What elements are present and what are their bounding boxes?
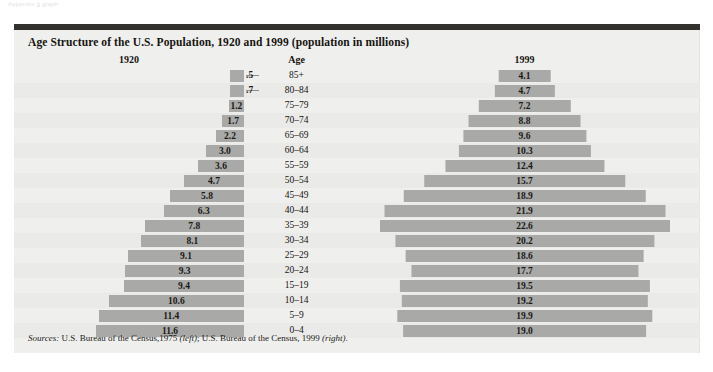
bar-1920: 8.1: [141, 235, 244, 247]
bar-cell-1999: 4.7: [349, 83, 700, 98]
bar-value-1999: 18.6: [405, 250, 644, 262]
bar-value-1999: 17.7: [411, 265, 638, 277]
table-row: 3.060–6410.3: [14, 143, 700, 158]
bar-cell-1920: .5: [14, 68, 244, 83]
bar-value-1999: 4.1: [498, 70, 551, 82]
bar-cell-1920: 11.4: [14, 308, 244, 323]
table-row: 9.320–2417.7: [14, 263, 700, 278]
bar-cell-1999: 9.6: [349, 128, 700, 143]
bar-1999: 4.7: [494, 85, 554, 97]
bar-1920: 1.2: [229, 100, 244, 112]
bar-value-1999: 22.6: [380, 220, 670, 232]
bar-1999: 15.7: [424, 175, 626, 187]
age-group-label: 75–79: [244, 98, 349, 113]
source-text-b: ; U.S. Bureau of the Census, 1999: [197, 333, 322, 343]
bar-value-1920: 10.6: [109, 295, 244, 307]
bar-cell-1999: 20.2: [349, 233, 700, 248]
bar-value-1999: 19.0: [403, 325, 647, 337]
bar-cell-1920: 4.7: [14, 173, 244, 188]
bar-1920: 4.7: [184, 175, 244, 187]
bar-1920: 1.7: [222, 115, 244, 127]
bar-value-1999: 15.7: [424, 175, 626, 187]
bar-1920: 9.1: [128, 250, 244, 262]
bar-1999: 20.2: [395, 235, 654, 247]
age-group-label: 25–29: [244, 248, 349, 263]
bar-cell-1999: 21.9: [349, 203, 700, 218]
bar-1920: [230, 85, 244, 97]
bar-value-1920: 9.1: [128, 250, 244, 262]
bar-1999: 21.9: [384, 205, 665, 217]
source-em-left: (left): [179, 333, 197, 343]
table-row: 8.130–3420.2: [14, 233, 700, 248]
bar-1920: 2.2: [216, 130, 244, 142]
source-text-a: U.S. Bureau of the Census,1975: [59, 333, 179, 343]
source-em-right: (right): [322, 333, 346, 343]
bar-value-1920: 6.3: [164, 205, 244, 217]
table-row: 9.125–2918.6: [14, 248, 700, 263]
table-row: 2.265–699.6: [14, 128, 700, 143]
bar-value-1920: 1.2: [229, 100, 244, 112]
age-group-label: 35–39: [244, 218, 349, 233]
age-group-label: 30–34: [244, 233, 349, 248]
bar-1999: 18.9: [403, 190, 646, 202]
bar-cell-1999: 18.9: [349, 188, 700, 203]
age-group-label: 60–64: [244, 143, 349, 158]
bar-value-1999: 10.3: [458, 145, 590, 157]
bar-value-1920: 5.8: [170, 190, 244, 202]
bar-1999: 17.7: [411, 265, 638, 277]
bar-1920: 9.4: [124, 280, 244, 292]
age-group-label: 5–9: [244, 308, 349, 323]
bar-value-1999: 7.2: [478, 100, 570, 112]
age-group-label: 55–59: [244, 158, 349, 173]
bar-value-1920: 3.0: [206, 145, 244, 157]
table-row: 10.610–1419.2: [14, 293, 700, 308]
bar-1920: 3.6: [198, 160, 244, 172]
bar-cell-1920: 9.1: [14, 248, 244, 263]
bar-1920: 3.0: [206, 145, 244, 157]
chart-panel: Age Structure of the U.S. Population, 19…: [14, 24, 700, 353]
bar-cell-1920: 10.6: [14, 293, 244, 308]
table-row: 7.835–3922.6: [14, 218, 700, 233]
bar-cell-1999: 19.5: [349, 278, 700, 293]
bar-cell-1920: 2.2: [14, 128, 244, 143]
age-group-label: 20–24: [244, 263, 349, 278]
table-row: 6.340–4421.9: [14, 203, 700, 218]
bar-cell-1920: 3.6: [14, 158, 244, 173]
age-group-label: 70–74: [244, 113, 349, 128]
table-row: 9.415–1919.5: [14, 278, 700, 293]
age-group-label: 85+: [244, 68, 349, 83]
bar-cell-1920: 5.8: [14, 188, 244, 203]
bar-cell-1999: 15.7: [349, 173, 700, 188]
bar-1999: 18.6: [405, 250, 644, 262]
bar-1999: 19.2: [401, 295, 647, 307]
table-row: 1.275–797.2: [14, 98, 700, 113]
bar-1999: 19.5: [399, 280, 649, 292]
bar-cell-1920: 6.3: [14, 203, 244, 218]
bar-1920: 10.6: [109, 295, 244, 307]
bar-cell-1999: 8.8: [349, 113, 700, 128]
bar-cell-1999: 10.3: [349, 143, 700, 158]
age-group-label: 50–54: [244, 173, 349, 188]
age-group-label: 10–14: [244, 293, 349, 308]
age-group-label: 45–49: [244, 188, 349, 203]
bar-1920: 11.4: [99, 310, 244, 322]
age-group-label: 15–19: [244, 278, 349, 293]
bar-cell-1920: 1.2: [14, 98, 244, 113]
age-group-label: 40–44: [244, 203, 349, 218]
bar-1920: 5.8: [170, 190, 244, 202]
source-label: Sources:: [28, 333, 59, 343]
bar-1999: 22.6: [380, 220, 670, 232]
bar-1920: 6.3: [164, 205, 244, 217]
source-text-c: .: [345, 333, 347, 343]
bar-cell-1920: 1.7: [14, 113, 244, 128]
age-group-label: 65–69: [244, 128, 349, 143]
bar-cell-1920: 8.1: [14, 233, 244, 248]
table-row: 5.845–4918.9: [14, 188, 700, 203]
table-row: 1.770–748.8: [14, 113, 700, 128]
pyramid-rows: .585+4.1.780–844.71.275–797.21.770–748.8…: [14, 68, 700, 338]
bar-cell-1999: 4.1: [349, 68, 700, 83]
bar-cell-1920: 7.8: [14, 218, 244, 233]
bar-value-1999: 21.9: [384, 205, 665, 217]
panel-top-rule: [14, 24, 700, 30]
bar-1999: 8.8: [468, 115, 581, 127]
